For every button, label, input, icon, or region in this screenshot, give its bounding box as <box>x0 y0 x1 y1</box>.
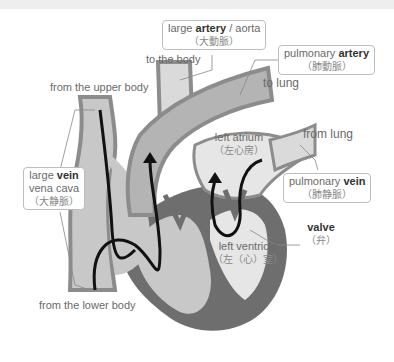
label-aorta: large artery / aorta （大動脈） <box>162 20 266 50</box>
label-from-lower-body: from the lower body <box>39 299 136 312</box>
label-to-body: to the body <box>146 53 200 66</box>
label-to-lung: to lung <box>263 77 299 90</box>
label-valve: valve （弁） <box>306 221 336 247</box>
label-pulmonary-artery: pulmonary artery （肺動脈） <box>278 45 375 75</box>
label-left-atrium: left atrium （左心房） <box>214 131 264 157</box>
label-pulmonary-vein: pulmonary vein （肺静脈） <box>283 173 371 203</box>
label-from-upper-body: from the upper body <box>50 81 148 94</box>
label-left-ventricle: left ventricle （左（心）室） <box>213 240 283 266</box>
label-vena-cava: large vein vena cava （大静脈） <box>23 167 85 210</box>
label-from-lung: from lung <box>303 128 353 141</box>
